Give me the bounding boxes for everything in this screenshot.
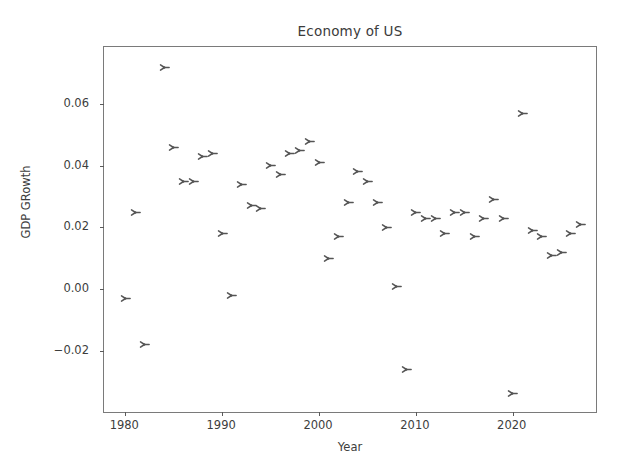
data-point	[391, 281, 402, 292]
data-point	[275, 169, 286, 180]
y-tick-label: −0.02	[54, 343, 89, 357]
x-tick-label: 2000	[303, 418, 332, 432]
y-axis-title: GDP GRowth	[19, 132, 33, 272]
x-tick-label: 2020	[497, 418, 526, 432]
data-point	[401, 364, 412, 375]
y-tick-mark	[100, 351, 104, 352]
data-point	[246, 200, 257, 211]
data-point	[507, 388, 518, 399]
x-axis-tick-labels: 19801990200020102020	[0, 418, 630, 442]
y-tick-mark	[100, 289, 104, 290]
data-point	[304, 136, 315, 147]
data-point	[255, 203, 266, 214]
data-point	[381, 222, 392, 233]
data-point	[352, 166, 363, 177]
y-tick-mark	[100, 227, 104, 228]
data-point	[188, 176, 199, 187]
data-point	[469, 231, 480, 242]
x-tick-mark	[513, 412, 514, 416]
x-axis-title: Year	[103, 440, 597, 454]
y-tick-label: 0.06	[63, 96, 89, 110]
data-point	[439, 228, 450, 239]
y-tick-mark	[100, 104, 104, 105]
data-point	[536, 231, 547, 242]
data-point	[130, 207, 141, 218]
data-point	[420, 213, 431, 224]
data-point	[459, 207, 470, 218]
data-point	[410, 207, 421, 218]
data-point	[575, 219, 586, 230]
data-point	[178, 176, 189, 187]
plot-area	[103, 46, 597, 413]
x-tick-label: 1990	[207, 418, 236, 432]
data-point	[517, 108, 528, 119]
data-point	[314, 157, 325, 168]
y-tick-label: 0.04	[63, 158, 89, 172]
data-point	[488, 194, 499, 205]
data-point	[217, 228, 228, 239]
data-point	[120, 293, 131, 304]
data-point	[430, 213, 441, 224]
x-tick-label: 1980	[110, 418, 139, 432]
x-tick-mark	[125, 412, 126, 416]
data-point	[343, 197, 354, 208]
x-tick-mark	[416, 412, 417, 416]
x-tick-mark	[319, 412, 320, 416]
data-point	[546, 250, 557, 261]
data-point	[284, 148, 295, 159]
data-point	[478, 213, 489, 224]
data-point	[556, 247, 567, 258]
y-tick-label: 0.02	[63, 219, 89, 233]
data-point	[372, 197, 383, 208]
chart-title: Economy of US	[103, 23, 597, 39]
data-point	[449, 207, 460, 218]
data-point	[498, 213, 509, 224]
data-point	[333, 231, 344, 242]
data-point	[527, 225, 538, 236]
data-point	[139, 339, 150, 350]
data-point	[236, 179, 247, 190]
data-point	[226, 290, 237, 301]
data-point	[197, 151, 208, 162]
data-point	[207, 148, 218, 159]
scatter-points-layer	[104, 47, 596, 412]
x-tick-mark	[222, 412, 223, 416]
data-point	[265, 160, 276, 171]
data-point	[362, 176, 373, 187]
data-point	[565, 228, 576, 239]
y-tick-mark	[100, 166, 104, 167]
y-tick-label: 0.00	[63, 281, 89, 295]
y-axis-tick-labels: −0.020.000.020.040.06	[0, 0, 97, 474]
data-point	[323, 253, 334, 264]
data-point	[159, 62, 170, 73]
x-tick-label: 2010	[400, 418, 429, 432]
matplotlib-figure: Economy of US −0.020.000.020.040.06 1980…	[0, 0, 630, 474]
data-point	[294, 145, 305, 156]
data-point	[168, 142, 179, 153]
